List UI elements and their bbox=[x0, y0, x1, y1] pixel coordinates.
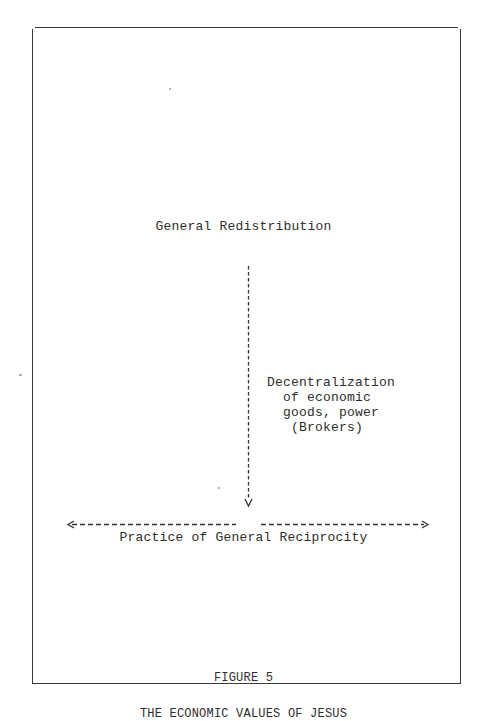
right-arrow bbox=[261, 521, 428, 528]
node-general-reciprocity: Practice of General Reciprocity bbox=[0, 530, 487, 545]
vertical-down-arrow bbox=[245, 266, 252, 506]
annotation-decentralization: Decentralization of economic goods, powe… bbox=[267, 375, 395, 435]
figure-title: THE ECONOMIC VALUES OF JESUS bbox=[0, 708, 487, 720]
figure-caption: FIGURE 5 THE ECONOMIC VALUES OF JESUS bbox=[0, 648, 487, 721]
figure-number: FIGURE 5 bbox=[0, 672, 487, 684]
annotation-line: goods, power bbox=[267, 405, 395, 420]
left-arrow bbox=[68, 521, 236, 528]
annotation-line: (Brokers) bbox=[267, 420, 395, 435]
annotation-line: Decentralization bbox=[267, 375, 395, 390]
annotation-line: of economic bbox=[267, 390, 395, 405]
arrowhead-down-icon bbox=[245, 499, 252, 506]
